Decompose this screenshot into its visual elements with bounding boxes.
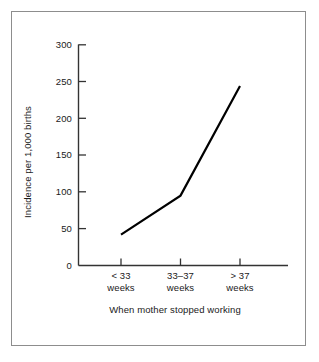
- data-series-line: [121, 86, 240, 235]
- x-tick-label-lt-33-weeks: < 33 weeks: [89, 270, 153, 293]
- x-tick-label-line1: < 33: [89, 270, 153, 282]
- y-tick-label-0: 0: [38, 261, 72, 271]
- x-tick-label-line2: weeks: [149, 282, 213, 294]
- x-tick-label-line2: weeks: [89, 282, 153, 294]
- y-tick-label-250: 250: [38, 77, 72, 87]
- x-tick-label-line2: weeks: [208, 282, 272, 294]
- x-tick-marks: [121, 259, 240, 266]
- y-tick-label-200: 200: [38, 114, 72, 124]
- y-tick-marks: [79, 45, 87, 229]
- x-axis-title: When mother stopped working: [60, 304, 290, 316]
- x-tick-label-33-37-weeks: 33–37 weeks: [149, 270, 213, 293]
- figure: Incidence per 1,000 births 300 250 200 1…: [0, 0, 319, 362]
- y-tick-label-150: 150: [38, 150, 72, 160]
- x-tick-label-line1: 33–37: [149, 270, 213, 282]
- y-tick-label-100: 100: [38, 187, 72, 197]
- y-tick-label-300: 300: [38, 40, 72, 50]
- y-tick-label-50: 50: [38, 224, 72, 234]
- x-tick-label-gt-37-weeks: > 37 weeks: [208, 270, 272, 293]
- y-axis-title: Incidence per 1,000 births: [21, 52, 35, 272]
- x-tick-label-line1: > 37: [208, 270, 272, 282]
